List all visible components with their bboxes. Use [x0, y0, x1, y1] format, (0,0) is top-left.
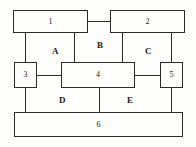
node-5[interactable]: 5	[160, 62, 183, 88]
node-2-label: 2	[145, 18, 149, 26]
region-b: B	[97, 41, 103, 50]
node-6-label: 6	[96, 121, 100, 129]
edge-2-5	[171, 33, 172, 62]
edge-3-6	[25, 88, 26, 112]
region-a: A	[52, 47, 59, 56]
edge-1-2	[88, 21, 110, 22]
region-c: C	[145, 47, 152, 56]
node-5-label: 5	[169, 71, 173, 79]
node-2[interactable]: 2	[110, 10, 185, 33]
edge-1-3	[25, 33, 26, 62]
edge-4-6	[99, 88, 100, 112]
node-1[interactable]: 1	[13, 10, 88, 33]
edge-5-6	[171, 88, 172, 112]
node-1-label: 1	[48, 18, 52, 26]
region-d: D	[59, 96, 66, 105]
node-3[interactable]: 3	[14, 62, 37, 88]
edge-3-4	[37, 75, 61, 76]
node-3-label: 3	[23, 71, 27, 79]
edge-2-4	[122, 33, 123, 62]
edge-4-5	[135, 75, 160, 76]
node-4-label: 4	[96, 71, 100, 79]
node-6[interactable]: 6	[14, 112, 183, 137]
node-4[interactable]: 4	[61, 62, 135, 88]
edge-1-4	[74, 33, 75, 62]
block-diagram: 123456 ABCDE	[0, 0, 196, 147]
region-e: E	[127, 96, 133, 105]
